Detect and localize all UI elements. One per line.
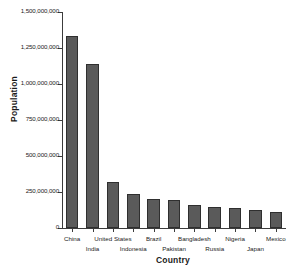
bar <box>107 182 120 228</box>
x-tick-label: Russia <box>205 245 224 252</box>
bar <box>229 208 242 228</box>
bar <box>147 199 160 228</box>
bar <box>86 64 99 228</box>
x-tick-mark <box>255 228 256 232</box>
x-tick-label: Indonesia <box>120 245 147 252</box>
bar <box>127 194 140 228</box>
x-tick-label: Nigeria <box>225 235 245 242</box>
x-tick-label: Bangladesh <box>178 235 211 242</box>
bar-chart-figure: Population Country 0250,000,000500,000,0… <box>0 0 296 269</box>
bar <box>270 212 283 228</box>
x-tick-mark <box>194 228 195 232</box>
bar <box>208 207 221 228</box>
plot-area: 0250,000,000500,000,000750,000,0001,000,… <box>62 12 286 228</box>
x-tick-mark <box>215 228 216 232</box>
x-tick-label: Mexico <box>266 235 286 242</box>
bar <box>188 205 201 228</box>
x-tick-mark <box>72 228 73 232</box>
x-tick-mark <box>133 228 134 232</box>
x-tick-label: Brazil <box>146 235 161 242</box>
x-tick-label: India <box>86 245 99 252</box>
x-tick-mark <box>235 228 236 232</box>
x-axis-title: Country <box>60 255 286 265</box>
x-tick-label: Pakistan <box>162 245 186 252</box>
bar <box>168 200 181 228</box>
x-tick-label: United States <box>94 235 131 242</box>
x-tick-label: China <box>64 235 80 242</box>
bar <box>249 210 262 228</box>
y-tick-label: 1,000,000,000 <box>21 79 59 86</box>
y-tick-label: 1,500,000,000 <box>21 7 59 14</box>
bars-layer <box>62 12 286 228</box>
y-tick-label: 500,000,000 <box>26 151 59 158</box>
y-tick-label: 250,000,000 <box>26 187 59 194</box>
x-tick-mark <box>276 228 277 232</box>
x-tick-mark <box>93 228 94 232</box>
x-tick-mark <box>174 228 175 232</box>
y-axis-title: Population <box>9 59 19 139</box>
x-tick-mark <box>113 228 114 232</box>
x-tick-mark <box>154 228 155 232</box>
y-tick-label: 1,250,000,000 <box>21 43 59 50</box>
bar <box>66 36 79 228</box>
y-tick-label: 0 <box>56 223 59 230</box>
x-tick-label: Japan <box>247 245 264 252</box>
y-tick-label: 750,000,000 <box>26 115 59 122</box>
